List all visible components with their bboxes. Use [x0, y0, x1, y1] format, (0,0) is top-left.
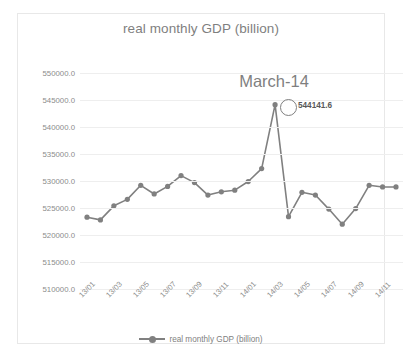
y-axis-tick-label: 540000.0	[42, 123, 75, 132]
data-point-marker	[299, 190, 304, 195]
y-axis-tick-label: 535000.0	[42, 150, 75, 159]
legend-label: real monthly GDP (billion)	[169, 335, 262, 344]
gridline	[80, 127, 403, 128]
gridline	[80, 235, 403, 236]
data-point-marker	[84, 215, 89, 220]
annotation-march-14: March-14	[214, 72, 334, 91]
data-point-marker	[232, 188, 237, 193]
data-point-marker	[152, 191, 157, 196]
data-point-marker	[205, 192, 210, 197]
gridline	[80, 100, 403, 101]
y-axis-tick-label: 525000.0	[42, 204, 75, 213]
data-point-marker	[313, 192, 318, 197]
legend-marker-icon	[139, 334, 165, 344]
y-axis-tick-label: 545000.0	[42, 96, 75, 105]
data-point-marker	[138, 183, 143, 188]
data-point-marker	[272, 102, 277, 107]
y-axis-tick-label: 520000.0	[42, 231, 75, 240]
peak-highlight-circle-icon	[280, 99, 297, 116]
series-line	[87, 105, 396, 225]
gridline	[80, 262, 403, 263]
x-axis-tick-labels: 13/0113/0313/0513/0713/0913/1114/0114/03…	[80, 291, 403, 331]
data-point-marker	[219, 189, 224, 194]
data-point-marker	[259, 166, 264, 171]
peak-data-label: 544141.6	[298, 101, 332, 110]
chart-container: real monthly GDP (billion) 550000.054500…	[17, 13, 385, 344]
gridline	[80, 154, 403, 155]
y-axis-tick-label: 530000.0	[42, 177, 75, 186]
data-point-marker	[125, 197, 130, 202]
gridline	[80, 208, 403, 209]
data-point-marker	[340, 222, 345, 227]
data-point-marker	[393, 184, 398, 189]
chart-legend: real monthly GDP (billion)	[18, 334, 384, 344]
data-point-marker	[165, 184, 170, 189]
y-axis-tick-label: 550000.0	[42, 69, 75, 78]
data-point-marker	[178, 173, 183, 178]
chart-title: real monthly GDP (billion)	[18, 21, 384, 36]
y-axis-tick-label: 515000.0	[42, 258, 75, 267]
data-point-marker	[98, 217, 103, 222]
data-point-marker	[367, 183, 372, 188]
gridline	[80, 181, 403, 182]
plot-area: 550000.0545000.0540000.0535000.0530000.0…	[80, 73, 403, 289]
data-point-marker	[286, 214, 291, 219]
y-axis-tick-label: 510000.0	[42, 285, 75, 294]
data-point-marker	[380, 184, 385, 189]
